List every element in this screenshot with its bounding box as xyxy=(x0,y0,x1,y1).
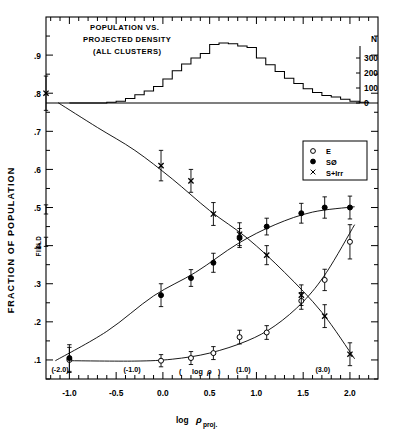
fit-curve-s xyxy=(55,207,354,361)
data-point xyxy=(299,211,304,216)
legend-item-label-e: E xyxy=(326,147,331,156)
data-point xyxy=(211,260,216,265)
x-axis-title: log ρ proj. xyxy=(176,414,217,429)
y-tick-label: .8 xyxy=(34,89,41,99)
data-point xyxy=(264,224,269,229)
x-tick-label: 0.5 xyxy=(204,388,216,398)
morphology-density-plot: -1.0-0.50.00.51.01.52.0 .1.2.3.4.5.6.7.8… xyxy=(0,0,415,438)
n-axis-ticks: 0100200300 xyxy=(356,53,378,108)
secondary-x-tick-label: (3.0) xyxy=(315,365,330,374)
n-tick-label: 100 xyxy=(364,83,378,93)
histogram-title-line-2: PROJECTED DENSITY xyxy=(83,35,171,44)
data-point xyxy=(188,276,193,281)
legend-item-label-s0: SØ xyxy=(326,158,337,167)
data-point xyxy=(237,335,242,340)
n-axis-label: N xyxy=(371,34,377,44)
y-tick-label: .1 xyxy=(34,355,41,365)
histogram-title-line-3: (ALL CLUSTERS) xyxy=(93,47,161,56)
y-tick-label: .6 xyxy=(34,165,41,175)
histogram-title: POPULATION VS. PROJECTED DENSITY (ALL CL… xyxy=(83,23,171,56)
x-tick-label: 1.0 xyxy=(251,388,263,398)
figure-panel: -1.0-0.50.00.51.01.52.0 .1.2.3.4.5.6.7.8… xyxy=(0,0,415,438)
n-tick-label: 200 xyxy=(364,68,378,78)
x-tick-label: 2.0 xyxy=(344,388,356,398)
n-axis: 0100200300 N xyxy=(356,34,378,108)
n-tick-label: 300 xyxy=(364,53,378,63)
data-point xyxy=(159,358,164,363)
secondary-x-tick-label: (-2.0) xyxy=(51,365,69,374)
data-point xyxy=(188,356,193,361)
x-axis-tick-labels: -1.0-0.50.00.51.01.52.0 xyxy=(62,388,356,398)
data-point xyxy=(211,351,216,356)
data-point xyxy=(322,205,327,210)
data-point xyxy=(159,293,164,298)
y-tick-label: .7 xyxy=(34,127,41,137)
y-tick-label: .3 xyxy=(34,279,41,289)
histogram-title-line-1: POPULATION VS. xyxy=(90,23,159,32)
legend-item-label-sirr: S+Irr xyxy=(326,169,343,178)
data-point xyxy=(264,330,269,335)
x-tick-label: -0.5 xyxy=(109,388,124,398)
x-tick-label: 0.0 xyxy=(157,388,169,398)
data-point xyxy=(322,277,327,282)
axis-ticks xyxy=(46,17,378,379)
series-s xyxy=(67,196,353,371)
data-point xyxy=(67,356,72,361)
y-tick-label: .9 xyxy=(34,51,41,61)
filled-circle-icon xyxy=(311,159,316,164)
y-tick-label: .5 xyxy=(34,203,41,213)
data-series-group xyxy=(67,150,353,372)
secondary-axis-log: log xyxy=(192,367,203,376)
secondary-axis-paren-close: ) xyxy=(218,367,221,376)
y-tick-label: .2 xyxy=(34,317,41,327)
secondary-axis-title: ( log ρ ) xyxy=(179,367,221,376)
data-point xyxy=(347,205,352,210)
y-axis-tick-labels: .1.2.3.4.5.6.7.8.9 xyxy=(34,51,41,366)
plot-frame xyxy=(46,17,378,379)
secondary-x-tick-label: (1.0) xyxy=(236,365,251,374)
field-label: FIELD xyxy=(35,236,42,257)
x-axis-title-subscript: proj. xyxy=(203,421,217,429)
series-sirr xyxy=(158,150,352,365)
secondary-axis-paren-open: ( xyxy=(179,367,182,376)
x-axis-title-rho: ρ xyxy=(195,414,202,425)
legend: E SØ S+Irr xyxy=(303,141,367,180)
x-tick-label: -1.0 xyxy=(62,388,77,398)
x-axis-title-log: log xyxy=(176,415,189,425)
x-tick-label: 1.5 xyxy=(297,388,309,398)
n-tick-label: 0 xyxy=(364,98,369,108)
fit-curve-e xyxy=(69,225,354,361)
y-axis-title: FRACTION OF POPULATION xyxy=(6,167,16,314)
secondary-axis-rho: ρ xyxy=(206,367,212,376)
secondary-x-tick-label: (-1.0) xyxy=(123,365,141,374)
data-point xyxy=(347,239,352,244)
